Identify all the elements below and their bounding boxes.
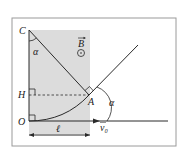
label-C: C	[19, 25, 26, 36]
label-H: H	[17, 89, 26, 100]
label-length: ℓ	[56, 123, 60, 134]
diagram-canvas: C α B H A α O ℓ v₀	[0, 0, 181, 159]
label-alpha-top: α	[33, 46, 39, 57]
label-v0: v₀	[100, 122, 108, 133]
field-dot-icon	[80, 52, 82, 54]
label-A: A	[87, 96, 95, 107]
label-alpha-right: α	[109, 97, 115, 108]
label-B: B	[78, 38, 84, 49]
label-O: O	[18, 116, 25, 127]
